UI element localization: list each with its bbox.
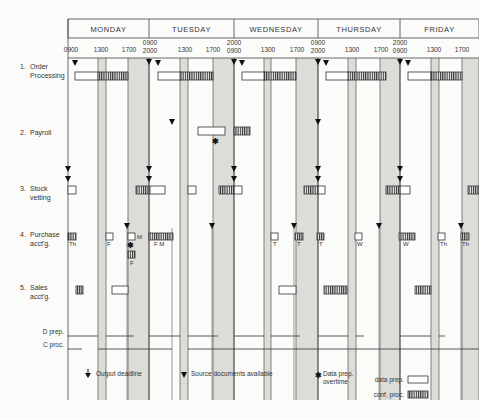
data-prep-box [271, 233, 278, 240]
data-prep-box [234, 186, 242, 194]
row-label: Purchase [30, 231, 60, 238]
output-deadline-arrow-icon [65, 176, 71, 182]
row-labels: 1.OrderProcessing2.Payroll3.Stockvetting… [20, 63, 65, 301]
data-prep-box [188, 186, 196, 194]
overtime-asterisk-icon: ✱ [127, 241, 134, 250]
day-code-label: M [137, 234, 142, 240]
data-prep-box [198, 127, 225, 135]
data-prep-box [75, 72, 98, 80]
day-code-label: Th [462, 241, 469, 247]
data-prep-box [438, 233, 445, 240]
time-label: 1300 [427, 46, 442, 53]
time-label: 2000 [311, 47, 326, 54]
source-docs-triangle-icon [155, 60, 161, 66]
time-label: 0900 [64, 46, 79, 53]
day-code-label: F [107, 241, 111, 247]
conf-proc-box [348, 72, 386, 80]
conf-proc-box [76, 286, 83, 294]
day-code-label: Th [69, 241, 76, 247]
conf-proc-box [317, 233, 324, 240]
resource-label: C proc. [43, 341, 64, 349]
day-label-tuesday: TUESDAY [172, 25, 211, 34]
time-label: 1700 [374, 46, 389, 53]
conf-proc-box [399, 233, 415, 240]
data-prep-box [318, 186, 325, 194]
time-label: 2000 [227, 39, 242, 46]
row-number: 5. [20, 284, 26, 291]
time-label: 1700 [122, 46, 137, 53]
day-code-label: T [319, 241, 323, 247]
data-prep-box [150, 186, 165, 194]
source-docs-triangle-icon [323, 60, 329, 66]
row-label: Order [30, 63, 49, 70]
data-prep-box [326, 72, 349, 80]
row-label: Payroll [30, 129, 52, 137]
data-prep-box [128, 233, 135, 240]
weekly-schedule-diagram: MONDAYTUESDAYWEDNESDAYTHURSDAYFRIDAY 090… [0, 0, 479, 419]
time-label: 2000 [393, 39, 408, 46]
row-number: 4. [20, 231, 26, 238]
time-label: 2000 [143, 47, 158, 54]
legend-conf-proc-swatch [408, 391, 428, 398]
day-code-label: T [297, 241, 301, 247]
row-label: Sales [30, 284, 48, 291]
legend-source-docs: Source documents available [191, 370, 273, 377]
conf-proc-box [386, 186, 400, 194]
time-label: 1300 [261, 46, 276, 53]
data-prep-box [355, 233, 362, 240]
data-prep-box [106, 233, 113, 240]
row-label: vetting [30, 194, 51, 202]
data-prep-box [408, 72, 431, 80]
data-prep-box [158, 72, 181, 80]
legend-conf-proc: conf. proc. [374, 391, 405, 399]
legend-overtime: overtime [323, 378, 348, 385]
conf-proc-box [68, 233, 76, 240]
day-label-monday: MONDAY [91, 25, 127, 34]
row-number: 3. [20, 185, 26, 192]
legend-data-prep-swatch [408, 376, 428, 383]
conf-proc-box [234, 127, 250, 135]
day-code-label: F M [154, 241, 164, 247]
time-label: 1700 [206, 46, 221, 53]
data-prep-box [242, 72, 265, 80]
legend-data-prep: data prep. [375, 376, 404, 384]
output-deadline-arrow-icon [65, 166, 71, 172]
conf-proc-box [219, 186, 234, 194]
conf-proc-box [264, 72, 296, 80]
conf-proc-box [149, 233, 173, 240]
time-label: 1300 [94, 46, 109, 53]
day-code-label: W [357, 241, 363, 247]
day-code-label: F [130, 260, 134, 266]
source-docs-triangle-icon [239, 60, 245, 66]
day-label-wednesday: WEDNESDAY [249, 25, 302, 34]
overtime-legend-icon: ✱ [315, 371, 322, 380]
source-docs-triangle-icon [405, 60, 411, 66]
time-label: 0900 [311, 39, 326, 46]
time-label: 1300 [345, 46, 360, 53]
evening-band [180, 58, 188, 400]
data-prep-box [68, 186, 76, 194]
time-label: 0900 [143, 39, 158, 46]
legend-overtime: Data prep. [323, 370, 354, 378]
row-number: 2. [20, 129, 26, 136]
overtime-asterisk-icon: ✱ [212, 137, 219, 146]
conf-proc-box [136, 186, 149, 194]
day-code-label: W [403, 241, 409, 247]
row-label: acct'g. [30, 293, 50, 301]
data-prep-box [279, 286, 296, 294]
conf-proc-box [98, 72, 128, 80]
conf-proc-box [295, 233, 303, 240]
conf-proc-box [431, 72, 462, 80]
conf-proc-box [180, 72, 213, 80]
row-label: Stock [30, 185, 48, 192]
day-code-label: Th [440, 241, 447, 247]
time-label: 1700 [290, 46, 305, 53]
conf-proc-box [415, 286, 431, 294]
day-label-friday: FRIDAY [424, 25, 455, 34]
resource-rows: D prep.C proc. [43, 328, 479, 349]
row-number: 1. [20, 63, 26, 70]
source-docs-triangle-icon [72, 60, 78, 66]
time-label: 1700 [455, 46, 470, 53]
data-prep-box [112, 286, 128, 294]
conf-proc-box [461, 233, 469, 240]
